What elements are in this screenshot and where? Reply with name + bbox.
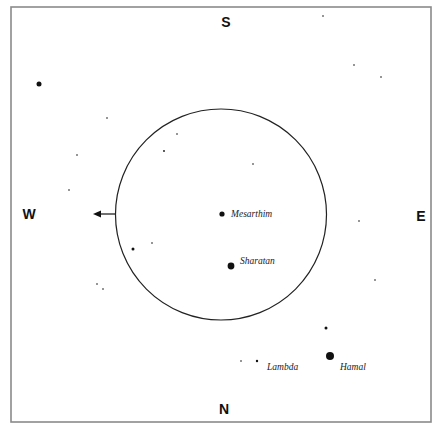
star-dot — [374, 279, 376, 281]
star-dot — [256, 360, 258, 362]
star-dot — [240, 360, 242, 362]
star-dot — [102, 288, 104, 290]
star-dot — [228, 263, 235, 270]
direction-label-n: N — [219, 401, 229, 417]
star-dot — [106, 117, 108, 119]
star-dot — [358, 220, 360, 222]
star-dot — [151, 242, 153, 244]
star-dot — [353, 64, 355, 66]
star-dot — [219, 211, 224, 216]
star-dot — [37, 82, 42, 87]
star-dot — [68, 189, 70, 191]
star-dot — [163, 150, 165, 152]
star-dot — [96, 283, 98, 285]
direction-label-e: E — [416, 208, 425, 224]
star-dot — [326, 352, 334, 360]
sky-chart: MesarthimSharatanLambdaHamal SNWE — [0, 0, 433, 429]
star-label: Hamal — [339, 362, 366, 372]
star-label: Mesarthim — [230, 209, 272, 219]
star-dot — [322, 15, 324, 17]
star-dot — [252, 163, 254, 165]
star-dot — [76, 154, 78, 156]
star-label: Lambda — [266, 362, 298, 372]
direction-label-s: S — [221, 14, 230, 30]
star-dot — [132, 248, 135, 251]
star-dot — [380, 76, 382, 78]
star-dot — [325, 327, 328, 330]
star-dot — [176, 133, 178, 135]
star-label: Sharatan — [240, 256, 275, 266]
direction-label-w: W — [22, 206, 36, 222]
